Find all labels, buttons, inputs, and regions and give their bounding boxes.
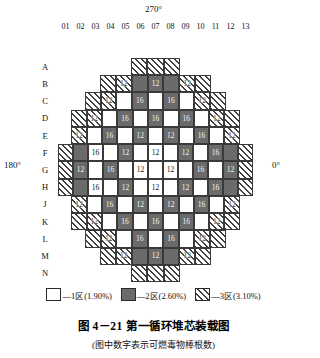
fuel-assembly-C09[interactable] [179,92,195,109]
fuel-assembly-M10[interactable] [195,248,211,265]
fuel-assembly-G10[interactable]: 16 [193,161,208,178]
fuel-assembly-E04[interactable]: 16 [102,127,117,144]
fuel-assembly-M06[interactable] [132,248,148,265]
fuel-assembly-L06[interactable]: 16 [132,230,148,247]
fuel-assembly-K12[interactable] [224,213,239,230]
fuel-assembly-D04[interactable] [102,110,117,127]
fuel-assembly-J08[interactable]: 12 [163,196,178,213]
fuel-assembly-J05[interactable] [117,196,132,213]
fuel-assembly-M04[interactable] [100,248,116,265]
fuel-assembly-K04[interactable] [102,213,117,230]
fuel-assembly-K10[interactable] [194,213,209,230]
fuel-assembly-H02[interactable] [73,179,88,196]
fuel-assembly-G03[interactable] [88,161,103,178]
fuel-assembly-H10[interactable] [193,179,208,196]
fuel-assembly-N06[interactable] [131,265,148,282]
fuel-assembly-J11[interactable] [209,196,224,213]
fuel-assembly-L09[interactable] [179,230,195,247]
fuel-assembly-D09[interactable]: 16 [179,110,194,127]
fuel-assembly-H04[interactable] [103,179,118,196]
fuel-assembly-J07[interactable] [148,196,163,213]
fuel-assembly-L07[interactable] [148,230,164,247]
fuel-assembly-M08[interactable] [163,248,179,265]
fuel-assembly-A07[interactable] [147,58,164,75]
fuel-assembly-K11[interactable]: 12 [209,213,224,230]
fuel-assembly-F07[interactable]: 12 [148,144,163,161]
fuel-assembly-G08[interactable]: 12 [163,161,178,178]
fuel-assembly-C03[interactable] [85,92,101,109]
fuel-assembly-E08[interactable]: 12 [163,127,178,144]
fuel-assembly-H05[interactable]: 12 [118,179,133,196]
fuel-assembly-J09[interactable] [179,196,194,213]
fuel-assembly-F12[interactable] [223,144,238,161]
fuel-assembly-B10[interactable] [195,75,211,92]
fuel-assembly-C10[interactable]: 12 [194,92,210,109]
fuel-assembly-F13[interactable] [238,144,253,161]
fuel-assembly-L08[interactable]: 16 [163,230,179,247]
fuel-assembly-N07[interactable] [147,265,164,282]
fuel-assembly-H08[interactable] [163,179,178,196]
fuel-assembly-L04[interactable]: 12 [101,230,117,247]
fuel-assembly-J04[interactable]: 16 [102,196,117,213]
fuel-assembly-C07[interactable] [148,92,164,109]
fuel-assembly-K05[interactable]: 16 [117,213,132,230]
fuel-assembly-G07[interactable] [148,161,163,178]
fuel-assembly-B08[interactable] [163,75,179,92]
fuel-assembly-F08[interactable] [163,144,178,161]
fuel-assembly-B06[interactable] [132,75,148,92]
fuel-assembly-K06[interactable] [133,213,148,230]
fuel-assembly-D10[interactable] [194,110,209,127]
fuel-assembly-H13[interactable] [238,179,253,196]
fuel-assembly-H12[interactable] [223,179,238,196]
fuel-assembly-K09[interactable]: 16 [179,213,194,230]
fuel-assembly-D08[interactable] [163,110,178,127]
fuel-assembly-E07[interactable] [148,127,163,144]
fuel-assembly-E10[interactable]: 16 [194,127,209,144]
fuel-assembly-L03[interactable] [85,230,101,247]
fuel-assembly-H01[interactable] [58,179,73,196]
fuel-assembly-E05[interactable] [117,127,132,144]
fuel-assembly-E06[interactable]: 12 [133,127,148,144]
fuel-assembly-F09[interactable]: 12 [178,144,193,161]
fuel-assembly-G09[interactable] [178,161,193,178]
fuel-assembly-J02[interactable]: 12 [71,196,86,213]
fuel-assembly-F02[interactable] [73,144,88,161]
fuel-assembly-C11[interactable] [210,92,226,109]
fuel-assembly-G02[interactable]: 12 [73,161,88,178]
fuel-assembly-G05[interactable] [118,161,133,178]
fuel-assembly-L11[interactable] [210,230,226,247]
fuel-assembly-A06[interactable] [131,58,148,75]
fuel-assembly-B04[interactable] [100,75,116,92]
fuel-assembly-G06[interactable]: 12 [133,161,148,178]
fuel-assembly-C08[interactable]: 16 [163,92,179,109]
fuel-assembly-G11[interactable] [208,161,223,178]
fuel-assembly-L10[interactable]: 12 [194,230,210,247]
fuel-assembly-D03[interactable]: 12 [87,110,102,127]
fuel-assembly-H06[interactable] [133,179,148,196]
fuel-assembly-K07[interactable]: 16 [148,213,163,230]
fuel-assembly-D12[interactable] [224,110,239,127]
fuel-assembly-F03[interactable]: 16 [88,144,103,161]
fuel-assembly-B09[interactable]: 12 [179,75,195,92]
fuel-assembly-M05[interactable]: 12 [116,248,132,265]
fuel-assembly-F11[interactable]: 16 [208,144,223,161]
fuel-assembly-E12[interactable]: 12 [224,127,239,144]
fuel-assembly-D06[interactable] [133,110,148,127]
fuel-assembly-F06[interactable] [133,144,148,161]
fuel-assembly-H11[interactable]: 16 [208,179,223,196]
fuel-assembly-J06[interactable]: 12 [133,196,148,213]
fuel-assembly-K03[interactable]: 12 [87,213,102,230]
fuel-assembly-F05[interactable]: 12 [118,144,133,161]
fuel-assembly-E11[interactable] [209,127,224,144]
fuel-assembly-N08[interactable] [164,265,181,282]
fuel-assembly-G01[interactable] [58,161,73,178]
fuel-assembly-E09[interactable] [179,127,194,144]
fuel-assembly-E03[interactable] [87,127,102,144]
fuel-assembly-C04[interactable]: 12 [101,92,117,109]
fuel-assembly-H09[interactable]: 12 [178,179,193,196]
fuel-assembly-J12[interactable]: 12 [224,196,239,213]
fuel-assembly-C05[interactable] [116,92,132,109]
fuel-assembly-C06[interactable]: 16 [132,92,148,109]
fuel-assembly-G12[interactable]: 12 [223,161,238,178]
fuel-assembly-D05[interactable]: 16 [117,110,132,127]
